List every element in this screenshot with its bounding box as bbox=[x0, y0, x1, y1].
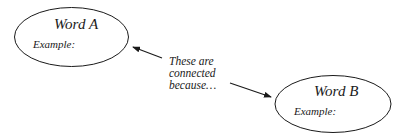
node-a-example-label: Example: bbox=[33, 39, 75, 50]
node-b-title: Word B bbox=[314, 84, 358, 99]
connection-line-2: connected bbox=[169, 67, 216, 79]
connection-explanation: These are connected because… bbox=[169, 55, 216, 91]
node-a-title: Word A bbox=[54, 17, 98, 32]
arrow-to-word-a bbox=[133, 47, 162, 58]
connection-line-3: because… bbox=[169, 79, 216, 91]
node-b-example-label: Example: bbox=[294, 106, 336, 117]
arrow-to-word-b bbox=[230, 83, 271, 97]
connection-line-1: These are bbox=[169, 55, 216, 67]
